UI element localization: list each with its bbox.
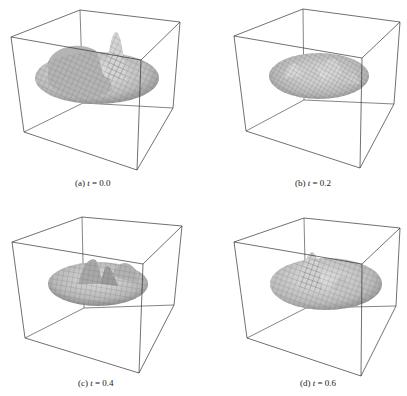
surface-plot-a	[0, 0, 204, 198]
panel-a: (a) t = 0.0	[0, 0, 204, 198]
caption-value: = 0.2	[313, 178, 332, 188]
surface-b	[269, 53, 369, 99]
panel-c: (c) t = 0.4	[0, 198, 204, 396]
caption-value: = 0.4	[95, 378, 114, 388]
caption-var: t	[87, 178, 90, 188]
surface-plot-c	[0, 198, 204, 396]
caption-value: = 0.0	[92, 178, 111, 188]
caption-label: (a)	[75, 178, 85, 188]
caption-b: (b) t = 0.2	[295, 178, 331, 188]
panel-d: (d) t = 0.6	[204, 198, 407, 396]
caption-var: t	[90, 378, 93, 388]
caption-var: t	[308, 178, 311, 188]
caption-label: (b)	[295, 178, 306, 188]
caption-label: (c)	[78, 378, 88, 388]
caption-var: t	[313, 378, 316, 388]
caption-label: (d)	[300, 378, 311, 388]
surface-plot-b	[204, 0, 407, 198]
caption-d: (d) t = 0.6	[300, 378, 336, 388]
caption-value: = 0.6	[318, 378, 337, 388]
surface-plot-d	[204, 198, 407, 396]
panel-b: (b) t = 0.2	[204, 0, 407, 198]
caption-c: (c) t = 0.4	[78, 378, 114, 388]
caption-a: (a) t = 0.0	[75, 178, 111, 188]
surface-c	[48, 259, 148, 306]
